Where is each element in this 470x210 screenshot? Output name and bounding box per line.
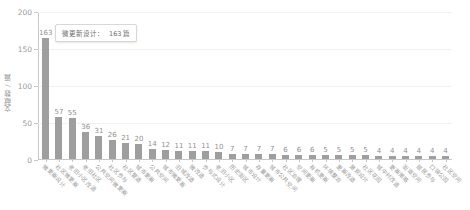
x-label-slot: 城市更新 (133, 163, 146, 209)
tooltip-label: 微更新设计： (62, 28, 104, 38)
bar-slot[interactable]: 6 (292, 12, 305, 159)
y-tick-label: 150 (18, 45, 32, 54)
bar[interactable] (189, 151, 196, 159)
bar-value-label: 4 (417, 147, 421, 155)
y-tick-label: 0 (27, 156, 32, 165)
x-tick (299, 159, 300, 162)
bar-slot[interactable]: 4 (372, 12, 385, 159)
x-tick (352, 159, 353, 162)
bar-value-label: 5 (350, 146, 354, 154)
bar-slot[interactable]: 11 (199, 12, 212, 159)
bar-value-label: 10 (214, 143, 223, 151)
bar-value-label: 12 (161, 141, 170, 149)
bar[interactable] (82, 132, 89, 159)
bar[interactable] (162, 150, 169, 159)
x-label-slot: 旧城改造 (173, 163, 186, 209)
bar-slot[interactable]: 10 (212, 12, 225, 159)
bar-slot[interactable]: 5 (346, 12, 359, 159)
bar[interactable] (55, 117, 62, 159)
bar-slot[interactable]: 7 (239, 12, 252, 159)
bar-slot[interactable]: 14 (146, 12, 159, 159)
bar[interactable] (175, 151, 182, 159)
bar-slot[interactable]: 5 (359, 12, 372, 159)
bar-slot[interactable]: 7 (226, 12, 239, 159)
x-tick-label: 社区空间 (442, 163, 463, 184)
bar[interactable] (149, 149, 156, 159)
bar-value-label: 6 (283, 146, 287, 154)
bar-value-label: 11 (188, 142, 197, 150)
x-label-slot: 老旧小区改造 (66, 163, 79, 209)
tooltip-value: 163 篇 (109, 28, 130, 38)
bar-value-label: 11 (174, 142, 183, 150)
bar-slot[interactable]: 4 (399, 12, 412, 159)
bar-value-label: 5 (323, 146, 327, 154)
x-tick (152, 159, 153, 162)
x-tick (286, 159, 287, 162)
bar-slot[interactable]: 7 (266, 12, 279, 159)
bar-value-label: 4 (390, 147, 394, 155)
bar-value-label: 7 (270, 145, 274, 153)
x-tick (46, 159, 47, 162)
x-tick (366, 159, 367, 162)
bar-value-label: 55 (68, 109, 77, 117)
bar-slot[interactable]: 4 (386, 12, 399, 159)
bar-slot[interactable]: 12 (159, 12, 172, 159)
x-tick (432, 159, 433, 162)
x-tick (232, 159, 233, 162)
y-tick (34, 160, 38, 161)
x-label-slot: 老旧小区 (213, 163, 226, 209)
x-tick (179, 159, 180, 162)
bar[interactable] (215, 152, 222, 159)
bar-slot[interactable]: 5 (319, 12, 332, 159)
bar-value-label: 21 (121, 134, 130, 142)
x-label-slot: 空间更新 (293, 163, 306, 209)
bar[interactable] (69, 118, 76, 159)
bar-slot[interactable]: 4 (439, 12, 452, 159)
bar-value-label: 36 (81, 123, 90, 131)
x-label-slot: 社区参与 (106, 163, 119, 209)
x-label-slot: 微更新设计 (39, 163, 52, 209)
bar[interactable] (202, 151, 209, 159)
bar[interactable] (135, 144, 142, 159)
y-tick (34, 86, 38, 87)
x-tick (112, 159, 113, 162)
x-tick (379, 159, 380, 162)
x-tick (246, 159, 247, 162)
bar-value-label: 20 (134, 135, 143, 143)
bar[interactable] (122, 143, 129, 159)
bar-value-label: 6 (310, 146, 314, 154)
y-tick (34, 123, 38, 124)
x-label-slot: 街道空间 (400, 163, 413, 209)
x-label-slot: 环境整治 (320, 163, 333, 209)
bar-value-label: 4 (403, 147, 407, 155)
x-tick (59, 159, 60, 162)
bar-value-label: 7 (257, 145, 261, 153)
x-tick (126, 159, 127, 162)
x-label-slot: 存量更新 (253, 163, 266, 209)
bar-slot[interactable]: 4 (426, 12, 439, 159)
x-label-slot: 城市公共空间 (266, 163, 279, 209)
x-tick (72, 159, 73, 162)
bar-slot[interactable]: 7 (252, 12, 265, 159)
bar-slot[interactable]: 11 (186, 12, 199, 159)
bar-value-label: 6 (297, 146, 301, 154)
bar-value-label: 26 (108, 131, 117, 139)
bar[interactable] (109, 140, 116, 159)
x-tick (272, 159, 273, 162)
bar-slot[interactable]: 6 (306, 12, 319, 159)
bar-slot[interactable]: 163 (39, 12, 52, 159)
bar-slot[interactable]: 11 (172, 12, 185, 159)
bar-slot[interactable]: 5 (332, 12, 345, 159)
x-label-slot: 居民参与 (413, 163, 426, 209)
bar[interactable] (95, 136, 102, 159)
bar-slot[interactable]: 4 (412, 12, 425, 159)
bar-slot[interactable]: 6 (279, 12, 292, 159)
x-label-slot: 公共空间 (146, 163, 159, 209)
y-tick (34, 49, 38, 50)
x-label-slot: 社区空间 (440, 163, 453, 209)
x-label-slot: 社区微更新 (52, 163, 65, 209)
x-label-slot: 微改造 (186, 163, 199, 209)
bar[interactable] (42, 38, 49, 159)
bar-value-label: 4 (443, 147, 447, 155)
x-label-slot: 有机更新 (306, 163, 319, 209)
